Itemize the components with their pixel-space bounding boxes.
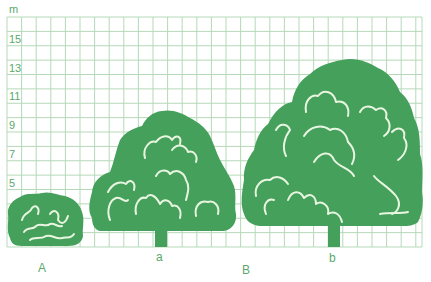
y-tick-label: 11 <box>9 90 20 102</box>
y-axis-ticks: 579111315 <box>9 33 21 189</box>
y-tick-label: 7 <box>9 148 15 160</box>
label-A: A <box>38 261 46 275</box>
tree-b <box>242 59 423 247</box>
label-B: B <box>242 263 250 277</box>
diagram-canvas: m 579111315 A a B b <box>0 0 431 282</box>
label-b: b <box>329 251 336 265</box>
tree-a <box>89 110 236 247</box>
shrub-A-crown <box>8 192 84 246</box>
unit-label: m <box>9 3 18 15</box>
y-tick-label: 13 <box>9 62 21 74</box>
y-tick-label: 9 <box>9 119 15 131</box>
label-a: a <box>156 250 163 264</box>
y-tick-label: 5 <box>9 177 15 189</box>
y-tick-label: 15 <box>9 33 21 45</box>
shrub-A <box>8 192 84 246</box>
